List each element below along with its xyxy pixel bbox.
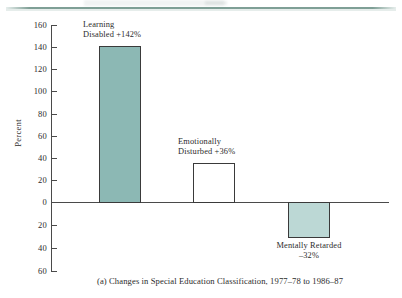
y-tick-mark	[51, 202, 57, 203]
bar-chart: Percent 160 140 120 100 80 60 40 20 0 20…	[0, 0, 402, 298]
y-tick-mark	[51, 25, 57, 26]
y-tick-label: 40	[22, 244, 47, 253]
y-tick-label: 60	[22, 132, 47, 141]
bar-label-mentally-retarded: Mentally Retarded –32%	[261, 241, 357, 261]
y-tick-label: 100	[22, 87, 47, 96]
bar-label-line1: Learning	[83, 20, 114, 29]
bar-label-line2: –32%	[299, 251, 319, 260]
y-tick-mark	[51, 91, 57, 92]
y-tick-mark	[51, 225, 57, 226]
y-tick-mark	[51, 180, 57, 181]
y-tick-mark	[51, 69, 57, 70]
y-tick-label: 60	[22, 267, 47, 276]
y-tick-mark	[51, 114, 57, 115]
bar-learning-disabled	[99, 46, 141, 203]
y-tick-mark	[51, 248, 57, 249]
y-tick-label: 40	[22, 154, 47, 163]
y-tick-label: 120	[22, 65, 47, 74]
bar-label-line1: Emotionally	[178, 137, 221, 146]
y-tick-mark	[51, 47, 57, 48]
figure-caption: (a) Changes in Special Education Classif…	[51, 276, 389, 286]
bar-label-learning-disabled: Learning Disabled +142%	[83, 20, 141, 40]
bar-mentally-retarded	[288, 202, 330, 238]
bar-label-emotionally-disturbed: Emotionally Disturbed +36%	[178, 137, 235, 157]
y-tick-mark	[51, 271, 57, 272]
y-tick-label: 20	[22, 176, 47, 185]
y-tick-label: 80	[22, 110, 47, 119]
y-tick-label: 160	[22, 21, 47, 30]
y-tick-mark	[51, 136, 57, 137]
y-axis-line	[51, 25, 52, 272]
bar-label-line1: Mentally Retarded	[276, 241, 341, 250]
y-tick-label: 0	[22, 198, 47, 207]
bar-label-line2: Disturbed +36%	[178, 147, 235, 156]
y-tick-label: 20	[22, 221, 47, 230]
y-tick-mark	[51, 158, 57, 159]
bar-label-line2: Disabled +142%	[83, 30, 141, 39]
bar-emotionally-disturbed	[193, 163, 235, 203]
y-tick-label: 140	[22, 43, 47, 52]
